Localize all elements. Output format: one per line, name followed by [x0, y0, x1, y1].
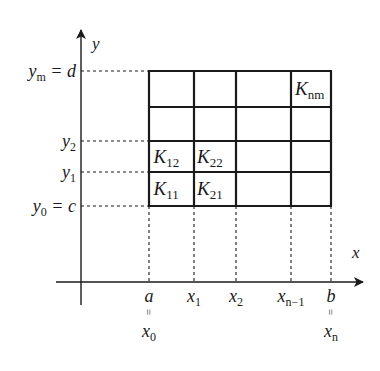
x-tick-x2: x2: [228, 286, 243, 309]
x-tick-labels: a=x0x1x2xn−1b=xn: [141, 286, 338, 344]
cell-label-k22: K22: [196, 146, 223, 170]
x-axis-label: x: [351, 243, 360, 262]
equals-sign: =: [143, 309, 155, 315]
x-tick-xn-1: xn−1: [277, 286, 305, 309]
x-tick-x1: x1: [186, 286, 201, 309]
y-tick-ym: ym = d: [27, 61, 77, 84]
partition-diagram: xy K11K21K12K22Knm ym = dy2y1y0 = c a=x0…: [0, 0, 380, 371]
x-tick-b: b: [327, 286, 336, 306]
cell-label-k11: K11: [153, 178, 179, 202]
y-tick-y2: y2: [60, 131, 76, 154]
x-tick-a: a: [145, 286, 154, 306]
y-axis-label: y: [90, 34, 100, 53]
y-tick-y0: y0 = c: [31, 196, 76, 219]
y-tick-y1: y1: [60, 162, 76, 185]
equals-sign: =: [325, 309, 337, 315]
cell-label-k12: K12: [153, 146, 180, 170]
cell-label-k21: K21: [196, 178, 223, 202]
dashed-guides: [81, 71, 331, 282]
x-tick-x0: x0: [141, 321, 156, 344]
x-tick-xn: xn: [323, 321, 338, 344]
cell-label-knm: Knm: [294, 78, 324, 102]
y-tick-labels: ym = dy2y1y0 = c: [27, 61, 77, 219]
